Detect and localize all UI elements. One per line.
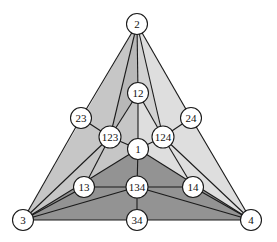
node-1: 1 — [128, 139, 149, 160]
node-label: 2 — [134, 18, 140, 30]
node-label: 34 — [132, 214, 144, 226]
node-123: 123 — [99, 126, 121, 148]
node-14: 14 — [183, 177, 204, 198]
node-label: 123 — [102, 131, 119, 143]
node-label: 14 — [188, 181, 200, 193]
node-label: 3 — [20, 214, 26, 226]
node-label: 13 — [79, 181, 91, 193]
node-24: 24 — [181, 108, 202, 129]
node-34: 34 — [127, 210, 148, 231]
node-label: 24 — [186, 112, 198, 124]
node-label: 4 — [248, 214, 254, 226]
node-4: 4 — [241, 210, 262, 231]
node-23: 23 — [71, 108, 92, 129]
node-134: 134 — [126, 176, 148, 198]
node-label: 134 — [129, 181, 146, 193]
node-label: 12 — [133, 87, 144, 99]
simplex-diagram: 2341223241231241131341434 — [0, 0, 277, 242]
node-124: 124 — [152, 126, 174, 148]
node-label: 1 — [135, 143, 141, 155]
node-2: 2 — [127, 14, 148, 35]
node-13: 13 — [74, 177, 95, 198]
node-3: 3 — [13, 210, 34, 231]
node-label: 124 — [155, 131, 172, 143]
node-label: 23 — [76, 112, 88, 124]
node-12: 12 — [128, 83, 149, 104]
